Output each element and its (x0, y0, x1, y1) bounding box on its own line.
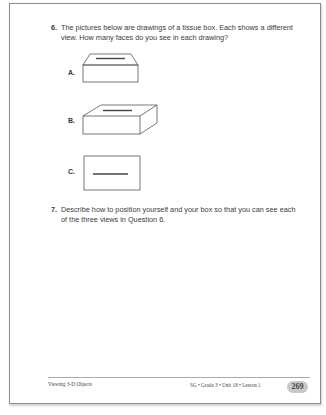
question-7-number: 7. (51, 205, 57, 215)
footer-course-info: SG • Grade 3 • Unit 18 • Lesson 1 (190, 382, 261, 388)
tissue-box-a (83, 54, 138, 82)
tissue-box-c (84, 156, 140, 190)
question-7-text: Describe how to position yourself and yo… (61, 205, 301, 225)
footer-section-title: Viewing 3-D Objects (48, 381, 92, 387)
page-number-badge: 269 (287, 381, 308, 393)
tissue-box-b (83, 105, 157, 134)
footer-rule (48, 377, 310, 378)
